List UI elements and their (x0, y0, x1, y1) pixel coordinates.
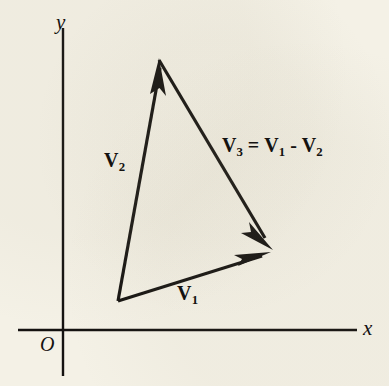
x-axis-label: x (363, 318, 372, 339)
equation-lhs: V (222, 134, 236, 156)
equation-equals-operator: = (248, 134, 259, 156)
vector-v1-label-base: V (177, 282, 192, 304)
y-axis-label: y (56, 12, 65, 33)
vector-v2-arrowhead (150, 58, 166, 96)
equation-term2: V (302, 134, 316, 156)
equation-minus-operator: - (290, 134, 297, 156)
vector-v2 (118, 58, 166, 301)
equation-term1: V (264, 134, 278, 156)
diagram-canvas (0, 0, 389, 386)
vector-v1-arrowhead (234, 252, 271, 266)
axes-group (18, 28, 357, 376)
vector-v3-equation-label: V3 = V1 - V2 (222, 135, 323, 158)
equation-term2-subscript: 2 (316, 145, 322, 159)
equation-lhs-subscript: 3 (236, 145, 242, 159)
vector-diagram-figure: y x O V2 V1 V3 = V1 - V2 (0, 0, 389, 386)
vector-v1-label: V1 (177, 283, 198, 306)
origin-label: O (40, 334, 54, 354)
vector-v2-label-subscript: 2 (119, 160, 125, 174)
equation-term1-subscript: 1 (279, 145, 285, 159)
vector-v2-shaft (118, 68, 160, 301)
vector-v2-label: V2 (104, 150, 125, 173)
vector-v1-label-subscript: 1 (192, 293, 198, 307)
vector-v2-label-base: V (104, 149, 119, 171)
